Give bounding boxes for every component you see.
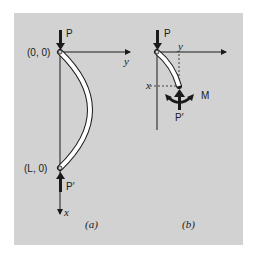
force-p-label-a: P: [66, 28, 73, 39]
force-p-prime-label-b: P′: [175, 112, 184, 123]
end-point-label: (L, 0): [24, 163, 47, 174]
panel-b: P y x M P′ (b): [145, 28, 226, 231]
force-p-arrow-icon: [59, 30, 62, 44]
y-axis-label-a: y: [123, 55, 129, 67]
column-buckling-diagram: P (0, 0) y (L, 0) P′ x (a) P y x M P′ (b…: [0, 0, 255, 258]
force-p-arrow-icon-b: [156, 30, 159, 44]
buckled-column-fill-a: [60, 52, 90, 168]
column-segment-fill-b: [157, 52, 179, 86]
x-label-b: x: [145, 79, 151, 91]
x-axis-label-a: x: [63, 206, 69, 218]
top-pin-icon-b: [155, 50, 159, 54]
force-p-prime-label-a: P′: [66, 181, 75, 192]
panel-a: P (0, 0) y (L, 0) P′ x (a): [24, 28, 130, 231]
origin-label: (0, 0): [27, 47, 50, 58]
top-pin-icon: [58, 50, 62, 54]
bottom-pin-icon: [58, 166, 62, 170]
force-p-label-b: P: [164, 28, 171, 39]
caption-b: (b): [182, 218, 195, 231]
moment-label: M: [201, 90, 209, 101]
force-p-prime-arrow-icon: [59, 178, 62, 192]
y-label-b: y: [177, 40, 183, 52]
caption-a: (a): [85, 218, 98, 231]
